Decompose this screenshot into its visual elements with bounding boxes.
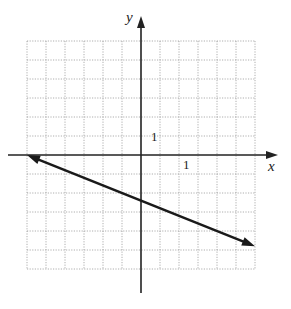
- x-axis-label: x: [268, 158, 275, 175]
- coordinate-plane: [0, 0, 291, 309]
- y-axis-label: y: [126, 9, 133, 26]
- x-axis: [8, 151, 278, 159]
- y-unit-label: 1: [151, 129, 158, 145]
- x-unit-label: 1: [183, 157, 190, 173]
